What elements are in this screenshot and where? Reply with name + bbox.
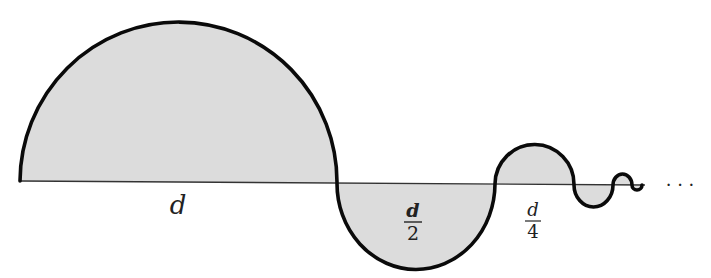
semicircle-chain-diagram: d d 2 d 4 · · ·	[0, 0, 711, 278]
semicircle-4-fill	[574, 185, 613, 207]
continuation-ellipsis: · · ·	[666, 174, 695, 195]
label-d-over-2-denominator: 2	[407, 222, 419, 244]
label-d-over-4-numerator: d	[527, 199, 539, 220]
semicircle-1-fill	[20, 22, 337, 183]
semicircle-3-fill	[495, 144, 574, 185]
label-d-over-4-denominator: 4	[527, 221, 538, 242]
label-d-over-4: d 4	[525, 199, 541, 242]
label-d-over-2-numerator: d	[406, 199, 419, 221]
label-d: d	[170, 190, 187, 220]
